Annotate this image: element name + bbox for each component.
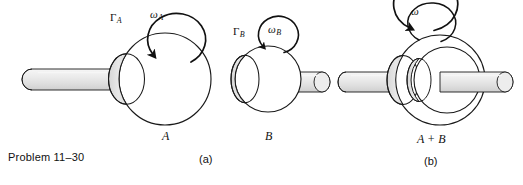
figure-container: ΓA ωA ΓB ωB ω A B A + B (a) (b) Problem … [0, 0, 523, 185]
omega-label-ab: ω [411, 6, 419, 17]
torque-label-a: ΓA [110, 12, 122, 25]
body-ab-shaft-right [440, 72, 513, 92]
body-ab-group [338, 0, 513, 125]
subcaption-a: (a) [199, 154, 212, 165]
figure-caption: Problem 11–30 [8, 152, 84, 163]
body-b-disk [231, 46, 301, 112]
omega-label-a: ωA [150, 9, 163, 22]
body-a-disk [109, 33, 212, 125]
part-label-ab: A + B [417, 133, 446, 145]
subcaption-b: (b) [424, 156, 437, 167]
body-a-shaft [22, 69, 120, 90]
part-label-b: B [265, 130, 272, 142]
body-a-group [22, 13, 211, 125]
omega-label-b: ωB [268, 24, 281, 37]
torque-label-b: ΓB [233, 26, 245, 39]
part-label-a: A [162, 130, 169, 142]
